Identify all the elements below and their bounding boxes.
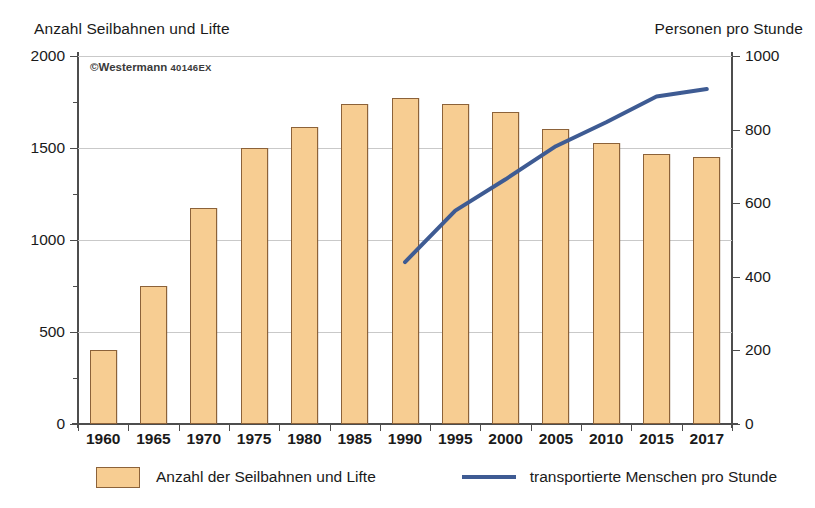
left-axis-minor-tick <box>73 286 77 287</box>
cable-car-chart: Anzahl Seilbahnen und Lifte Personen pro… <box>0 0 815 508</box>
x-axis-label: 2000 <box>488 430 522 448</box>
plot-area: 0500100015002000 02004006008001000 19601… <box>78 56 732 424</box>
bar <box>392 98 419 424</box>
x-axis-tick <box>128 424 129 431</box>
left-axis-minor-tick <box>73 378 77 379</box>
x-axis-label: 1960 <box>86 430 120 448</box>
legend-entry-bars: Anzahl der Seilbahnen und Lifte <box>96 467 376 488</box>
x-axis-tick <box>78 424 79 431</box>
left-axis-tick-label: 1000 <box>31 232 65 248</box>
x-axis-tick <box>732 424 733 431</box>
x-axis-tick <box>229 424 230 431</box>
legend-swatch-bar-icon <box>96 467 140 488</box>
x-axis-label: 1975 <box>237 430 271 448</box>
x-axis-tick <box>380 424 381 431</box>
left-axis-tick <box>70 332 77 333</box>
left-axis-tick-label: 2000 <box>31 48 65 64</box>
bar <box>341 104 368 424</box>
right-axis-tick <box>733 350 740 351</box>
x-axis-tick <box>430 424 431 431</box>
left-axis-tick <box>70 424 77 425</box>
left-axis-minor-tick <box>73 102 77 103</box>
x-axis-label: 1995 <box>438 430 472 448</box>
right-axis-tick-label: 400 <box>745 269 771 285</box>
x-axis-label: 1980 <box>287 430 321 448</box>
right-axis-tick-label: 200 <box>745 342 771 358</box>
x-axis-tick <box>581 424 582 431</box>
x-axis-label: 1985 <box>337 430 371 448</box>
x-axis-tick <box>330 424 331 431</box>
right-axis-tick <box>733 424 740 425</box>
x-axis-tick <box>682 424 683 431</box>
legend-label-line: transportierte Menschen pro Stunde <box>530 468 777 486</box>
x-axis-tick <box>531 424 532 431</box>
right-axis-tick-label: 1000 <box>745 48 779 64</box>
right-axis-tick-label: 800 <box>745 122 771 138</box>
bar <box>90 350 117 424</box>
right-axis-tick-label: 0 <box>745 416 754 432</box>
right-axis-tick <box>733 277 740 278</box>
chart-legend: Anzahl der Seilbahnen und Lifte transpor… <box>78 462 758 492</box>
bar <box>442 104 469 424</box>
left-axis-tick <box>70 56 77 57</box>
left-axis-caption: Anzahl Seilbahnen und Lifte <box>34 20 230 38</box>
left-axis-tick <box>70 148 77 149</box>
bar <box>693 157 720 424</box>
x-axis-tick <box>279 424 280 431</box>
x-axis-tick <box>480 424 481 431</box>
left-axis-tick-label: 500 <box>39 324 65 340</box>
bar <box>291 127 318 424</box>
left-axis-tick-label: 1500 <box>31 140 65 156</box>
x-axis-label: 2017 <box>690 430 724 448</box>
legend-swatch-line-icon <box>462 475 516 479</box>
bar <box>241 148 268 424</box>
right-axis-tick <box>733 130 740 131</box>
x-axis-label: 2010 <box>589 430 623 448</box>
bar <box>190 208 217 424</box>
right-axis-tick-label: 600 <box>745 195 771 211</box>
x-axis-label: 1990 <box>388 430 422 448</box>
bar <box>140 286 167 424</box>
right-axis-caption: Personen pro Stunde <box>655 20 803 38</box>
bar <box>492 112 519 424</box>
legend-entry-line: transportierte Menschen pro Stunde <box>462 468 777 486</box>
x-axis-label: 2015 <box>639 430 673 448</box>
x-axis-label: 1965 <box>136 430 170 448</box>
x-axis-label: 1970 <box>187 430 221 448</box>
left-axis-minor-tick <box>73 194 77 195</box>
right-axis-tick <box>733 203 740 204</box>
left-axis-tick <box>70 240 77 241</box>
x-axis-label: 2005 <box>539 430 573 448</box>
bar <box>542 129 569 424</box>
left-axis-tick-label: 0 <box>56 416 65 432</box>
x-axis-tick <box>179 424 180 431</box>
legend-label-bars: Anzahl der Seilbahnen und Lifte <box>156 468 376 486</box>
bar <box>593 143 620 424</box>
bar <box>643 154 670 424</box>
x-axis-tick <box>631 424 632 431</box>
right-axis-tick <box>733 56 740 57</box>
gridline <box>78 56 732 57</box>
